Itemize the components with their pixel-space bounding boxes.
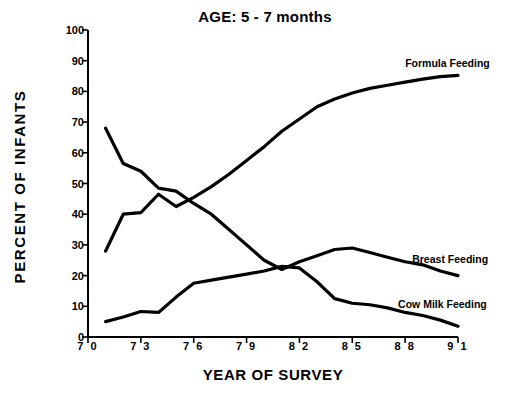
series-line-formula-feeding — [106, 75, 458, 251]
series-line-cow-milk-feeding — [106, 266, 458, 326]
chart-container: AGE: 5 - 7 months PERCENT OF INFANTS 010… — [0, 0, 530, 401]
series-line-breast-feeding — [106, 128, 458, 275]
series-label-breast-feeding: Breast Feeding — [412, 253, 488, 265]
series-label-cow-milk-feeding: Cow Milk Feeding — [398, 298, 487, 310]
series-label-formula-feeding: Formula Feeding — [405, 57, 490, 69]
